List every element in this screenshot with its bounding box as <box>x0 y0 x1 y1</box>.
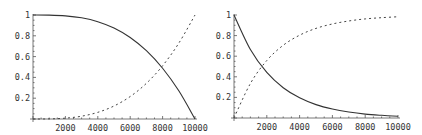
y-tick-label: 0.4 <box>216 72 231 82</box>
x-tick-label: 2000 <box>55 123 75 133</box>
x-tick-label: 8000 <box>152 123 172 133</box>
x-tick-label: 10000 <box>385 122 411 132</box>
series-dashed-line <box>33 15 195 119</box>
y-tick-label: 0.8 <box>15 31 30 41</box>
y-tick-label: 0.8 <box>216 31 231 41</box>
series-solid-line <box>33 15 195 119</box>
x-tick-label: 6000 <box>120 123 140 133</box>
x-tick-label: 8000 <box>355 122 375 132</box>
chart-area: 2000400060008000100000.20.40.60.81200040… <box>0 0 422 135</box>
y-tick-label: 0.6 <box>216 51 231 61</box>
y-tick-label: 0.4 <box>15 72 30 82</box>
y-tick-label: 1 <box>25 10 30 20</box>
y-tick-label: 1 <box>226 10 231 20</box>
x-tick-label: 2000 <box>257 122 277 132</box>
x-tick-label: 6000 <box>322 122 342 132</box>
chart-2: 2000400060008000100000.20.40.60.81 <box>216 10 411 132</box>
series-dashed-line <box>234 17 398 118</box>
chart-1: 2000400060008000100000.20.40.60.81 <box>15 10 208 133</box>
series-solid-line <box>234 15 398 116</box>
y-tick-label: 0.2 <box>15 93 30 103</box>
y-tick-label: 0.2 <box>216 92 231 102</box>
x-tick-label: 4000 <box>289 122 309 132</box>
x-tick-label: 10000 <box>182 123 208 133</box>
x-tick-label: 4000 <box>88 123 108 133</box>
y-tick-label: 0.6 <box>15 52 30 62</box>
